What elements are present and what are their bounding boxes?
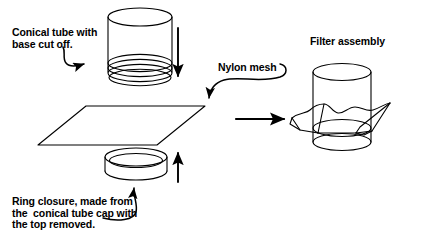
filter-assembly-shape bbox=[290, 64, 390, 151]
label-ring-closure: Ring closure, made from the conical tube… bbox=[12, 196, 137, 231]
ring-closure-shape bbox=[105, 148, 167, 180]
label-filter-assembly: Filter assembly bbox=[310, 36, 385, 48]
conical-tube-shape bbox=[108, 8, 172, 86]
label-conical-tube: Conical tube with base cut off. bbox=[12, 27, 97, 50]
label-nylon-mesh: Nylon mesh bbox=[218, 62, 277, 74]
filter-assembly-diagram: Conical tube with base cut off. Ring clo… bbox=[0, 0, 429, 245]
nylon-mesh-sheet-shape bbox=[38, 106, 205, 145]
